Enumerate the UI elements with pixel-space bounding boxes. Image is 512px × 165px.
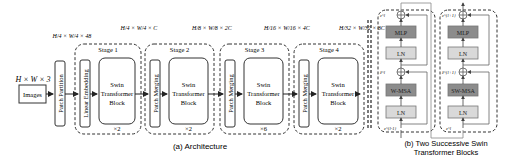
first-block-label: Linear Embedding [82,68,89,117]
mlp-box-label: MLP [457,30,470,36]
ln-box-label: LN [397,110,406,116]
stage-out-dims: H/16 × W/16 × 4C [263,25,311,31]
swin-block-label: Block [330,99,346,106]
swin-block-label: Swin [331,81,345,88]
z-out-label: z^{l+1} [441,13,456,18]
z-mid-label: ẑ^l [379,70,386,75]
swin-block-label: Swin [182,81,196,88]
swin-block-label: Transformer [172,90,205,97]
ln-box-label: LN [459,110,468,116]
stage-out-dims: H/4 × W/4 × C [120,25,159,31]
input-dims: H × W × 3 [14,75,50,84]
swin-block-label: Transformer [101,90,134,97]
swin-block-2: MLPLNSW-MSALNz^{l+1}ẑ^{l+1}z^l [440,10,497,132]
swin-diagram: H × W × 3 Images Patch Partition H/4 × W… [0,0,512,165]
partition-out-dims: H/4 × W/4 × 48 [52,33,92,39]
swin-block-label: Block [181,99,197,106]
caption-blocks-line1: (b) Two Successive Swin [404,139,487,148]
mlp-box-label: MLP [395,30,408,36]
swin-block-1: MLPLNW-MSALNz^lẑ^lz^{l-1} [378,10,435,132]
swin-block-label: Transformer [247,90,280,97]
stage-title: Stage 4 [319,46,339,53]
caption-architecture: (a) Architecture [173,142,228,151]
repeat-count: ×2 [335,125,342,132]
stage-title: Stage 2 [170,46,189,53]
stage-3: Stage 3Patch MergingSwinTransformerBlock… [220,25,311,134]
repeat-count: ×2 [185,125,192,132]
stage-4: Stage 4Patch MergingSwinTransformerBlock… [294,25,386,134]
attention-box-label: W-MSA [391,88,412,94]
z-out-label: z^l [379,13,386,18]
stage-1: Stage 1Linear EmbeddingSwinTransformerBl… [75,25,158,134]
attention-box-label: SW-MSA [451,88,475,94]
first-block-label: Patch Merging [152,74,159,113]
repeat-count: ×2 [114,125,121,132]
patch-partition-label: Patch Partition [57,74,64,113]
z-mid-label: ẑ^{l+1} [441,70,456,75]
images-label: Images [23,91,42,98]
swin-block-label: Block [256,99,272,106]
first-block-label: Patch Merging [301,74,308,113]
stage-out-dims: H/32 × W/32 × 8C [338,25,386,31]
z-in-label: z^{l-1} [383,126,396,131]
swin-block-label: Swin [110,81,124,88]
z-in-label: z^l [445,126,452,131]
repeat-count: ×6 [260,125,268,132]
ln-box-label: LN [397,51,406,57]
first-block-label: Patch Merging [227,74,234,113]
stage-out-dims: H/8 × W/8 × 2C [191,25,233,31]
ln-box-label: LN [459,51,468,57]
swin-block-label: Swin [257,81,271,88]
swin-block-label: Transformer [322,90,355,97]
caption-blocks-line2: Transformer Blocks [414,148,479,157]
stage-title: Stage 3 [245,46,264,53]
swin-block-label: Block [109,99,125,106]
stage-title: Stage 1 [98,46,117,53]
